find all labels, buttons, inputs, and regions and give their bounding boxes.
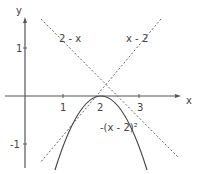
y-tick-minus-1: -1	[10, 139, 20, 150]
label-2-minus-x: 2 - x	[59, 33, 81, 44]
x-tick-3: 3	[137, 102, 143, 113]
y-axis-arrow-icon	[23, 17, 27, 23]
x-tick-2: 2	[97, 102, 103, 113]
graph: y x 1 2 3 1 -1 2 - x x - 2 -(x - 2)²	[0, 0, 197, 174]
x-axis-label: x	[186, 95, 192, 106]
x-axis-arrow-icon	[175, 94, 181, 98]
label-x-minus-2: x - 2	[126, 33, 148, 44]
x-tick-1: 1	[60, 102, 66, 113]
y-axis-label: y	[16, 5, 22, 16]
y-tick-1: 1	[16, 43, 22, 54]
label-parabola: -(x - 2)²	[100, 122, 138, 133]
